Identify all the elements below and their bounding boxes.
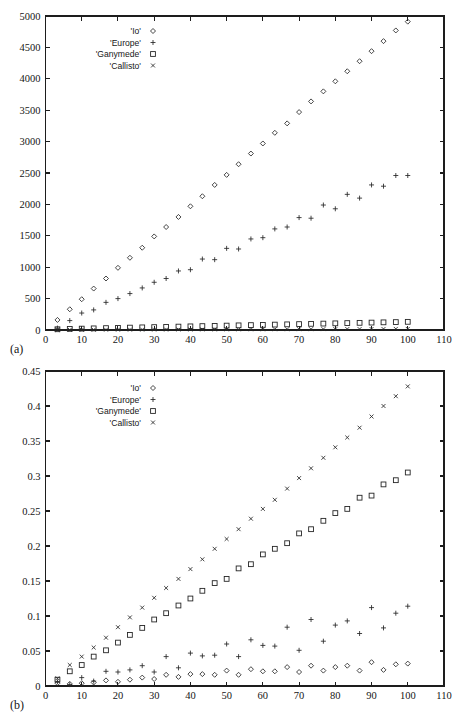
y-axis-tick-label: 1000 (20, 262, 41, 273)
legend-item-marker (151, 29, 156, 34)
data-point (345, 69, 350, 74)
data-point (140, 663, 145, 668)
data-point (309, 99, 314, 104)
legend: 'Io''Europe''Ganymede''Callisto' (96, 383, 156, 428)
y-axis-tick-label: 3000 (20, 136, 41, 147)
data-point (212, 672, 217, 677)
data-point (285, 225, 290, 230)
data-point (127, 677, 132, 682)
data-point (309, 663, 314, 668)
legend-item-marker (151, 409, 156, 414)
data-point (127, 667, 132, 672)
data-point (406, 384, 410, 388)
x-axis-tick-label: 100 (400, 690, 416, 701)
data-point (382, 404, 386, 408)
data-point (333, 623, 338, 628)
data-point (260, 141, 265, 146)
data-point (381, 482, 386, 487)
x-axis-tick-label: 100 (400, 334, 416, 345)
data-point (104, 648, 109, 653)
data-point (249, 517, 253, 521)
data-point (333, 665, 338, 670)
legend-item-marker (151, 421, 155, 425)
data-point (188, 596, 193, 601)
x-axis-tick-label: 0 (43, 690, 48, 701)
data-point (333, 511, 338, 516)
data-point (345, 618, 350, 623)
data-point (345, 663, 350, 668)
data-point (272, 546, 277, 551)
legend-item-marker (151, 397, 156, 402)
x-axis-tick-label: 80 (330, 690, 341, 701)
data-point (273, 498, 277, 502)
x-axis-tick-label: 20 (113, 334, 124, 345)
data-point (164, 611, 169, 616)
data-point (333, 445, 337, 449)
data-point (369, 605, 374, 610)
plot-svg: 0500100015002000250030003500400045005000… (0, 0, 465, 360)
y-axis-tick-label: 0 (35, 681, 40, 692)
x-axis-tick-label: 40 (185, 334, 196, 345)
data-point (188, 204, 193, 209)
data-point (212, 257, 217, 262)
data-point (297, 531, 302, 536)
data-point (357, 320, 362, 325)
data-point (91, 307, 96, 312)
data-point (55, 317, 60, 322)
x-axis-tick-label: 80 (330, 334, 341, 345)
data-point (236, 162, 241, 167)
legend: 'Io''Europe''Ganymede''Callisto' (96, 26, 156, 71)
data-point (405, 319, 410, 324)
data-point (140, 675, 145, 680)
x-axis-tick-label: 90 (366, 690, 377, 701)
data-point (188, 567, 192, 571)
data-point (128, 615, 132, 619)
data-point (152, 677, 157, 682)
data-point (405, 470, 410, 475)
x-axis-tick-label: 10 (76, 690, 87, 701)
data-point (309, 216, 314, 221)
data-point (260, 552, 265, 557)
legend-item-label: 'Io' (131, 26, 142, 36)
y-axis-tick-label: 0 (35, 325, 40, 336)
data-point (212, 182, 217, 187)
data-point (297, 648, 302, 653)
data-point (200, 257, 205, 262)
data-point (272, 669, 277, 674)
data-point (260, 235, 265, 240)
data-point (224, 668, 229, 673)
data-point (381, 625, 386, 630)
y-axis-tick-label: 0.1 (27, 611, 40, 622)
data-point (381, 39, 386, 44)
chart-panel-b: 00.050.10.150.20.250.30.350.40.450102030… (0, 358, 465, 716)
x-axis-tick-label: 30 (149, 334, 160, 345)
x-axis-tick-label: 90 (366, 334, 377, 345)
data-point (103, 276, 108, 281)
y-axis-tick-label: 500 (25, 293, 41, 304)
data-point (285, 487, 289, 491)
data-point (127, 291, 132, 296)
data-point (260, 643, 265, 648)
data-point (140, 245, 145, 250)
data-point (176, 214, 181, 219)
data-point (164, 672, 169, 677)
data-point (369, 182, 374, 187)
y-axis-tick-label: 2500 (20, 168, 41, 179)
data-point (67, 318, 72, 323)
data-point (357, 196, 362, 201)
data-point (405, 604, 410, 609)
data-point (104, 636, 108, 640)
data-point (369, 320, 374, 325)
figure-two-panel-scatter: 0500100015002000250030003500400045005000… (0, 0, 465, 716)
data-point (67, 307, 72, 312)
data-point (213, 547, 217, 551)
data-point (272, 130, 277, 135)
y-axis-tick-label: 3500 (20, 105, 41, 116)
data-point (200, 672, 205, 677)
data-point (321, 456, 325, 460)
legend-item-label: 'Ganymede' (96, 406, 142, 416)
data-point (261, 507, 265, 511)
data-point (297, 476, 301, 480)
data-point (369, 660, 374, 665)
data-point (393, 320, 398, 325)
